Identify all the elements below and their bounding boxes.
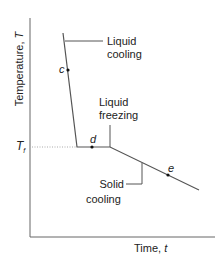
solid-cooling-label-line2: cooling: [86, 193, 121, 206]
liquid-cooling-line1: Liquid: [107, 35, 142, 48]
liquid-freezing-label: Liquid freezing: [99, 96, 138, 122]
y-axis-symbol: T: [13, 32, 25, 39]
liquid-freezing-line1: Liquid: [99, 96, 138, 109]
point-c-label: c: [59, 63, 65, 76]
x-axis-label: Time, t: [134, 242, 167, 255]
liquid-cooling-line2: cooling: [107, 48, 142, 61]
y-axis-label-text: Temperature,: [13, 38, 25, 106]
freezing-temperature-label: Tf: [16, 140, 25, 157]
point-c-marker: [66, 68, 69, 71]
x-axis-label-text: Time,: [134, 242, 164, 254]
solid-cooling-line2: cooling: [86, 193, 121, 206]
tf-subscript: f: [23, 147, 25, 154]
point-e-label: e: [168, 162, 174, 175]
x-axis-symbol: t: [164, 242, 167, 254]
solid-cooling-line1: Solid: [92, 178, 124, 191]
liquid-cooling-label: Liquid cooling: [107, 35, 142, 61]
solid-cooling-leader: [126, 163, 142, 184]
solid-cooling-label: Solid: [92, 178, 124, 191]
liquid-freezing-line2: freezing: [99, 109, 138, 122]
y-axis-label: Temperature, T: [13, 19, 25, 119]
point-d-label: d: [90, 133, 96, 146]
